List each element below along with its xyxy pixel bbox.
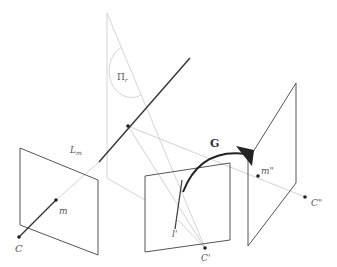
image-plane-center xyxy=(145,163,230,252)
line-L-m xyxy=(19,58,190,237)
image-plane-right xyxy=(248,83,296,246)
label-C-prime: C' xyxy=(201,253,210,263)
plane-slanted-edge xyxy=(107,13,205,248)
plane-pi-r xyxy=(107,13,205,248)
points xyxy=(17,124,307,250)
image-planes xyxy=(20,83,296,255)
label-m: m xyxy=(59,206,68,216)
image-plane-left xyxy=(20,148,98,255)
plane-bottom-edge xyxy=(107,178,145,200)
point-X xyxy=(126,124,130,128)
arrow-curve xyxy=(183,153,246,192)
label-m-double-prime: m" xyxy=(261,166,274,176)
line-L-m-upper xyxy=(99,58,190,162)
point-C-double-prime xyxy=(303,195,307,199)
label-C-double-prime: C" xyxy=(311,198,322,208)
label-L-m: Lm xyxy=(69,145,82,156)
point-C xyxy=(17,235,21,239)
arrow-head-icon xyxy=(236,146,254,166)
point-C-prime xyxy=(203,246,207,250)
ray-through-image-1 xyxy=(56,162,99,200)
label-l-prime: l' xyxy=(172,229,177,239)
diagram-canvas: C m Lm Πr l' C' G m" C" xyxy=(0,0,337,267)
label-G: G xyxy=(210,137,219,150)
plane-angle-arc xyxy=(109,47,141,97)
point-m xyxy=(54,198,58,202)
label-C: C xyxy=(15,243,23,254)
image-line-l-prime xyxy=(175,180,182,229)
ray-to-C-prime xyxy=(128,126,205,248)
label-Pi-r: Πr xyxy=(117,72,129,83)
point-m-double-prime xyxy=(256,174,260,178)
